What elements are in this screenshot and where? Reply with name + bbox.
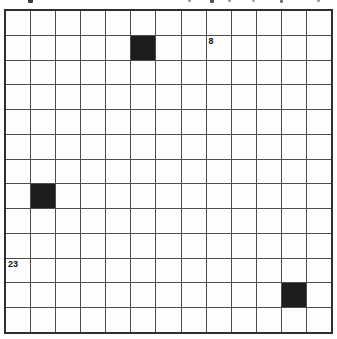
grid-cell[interactable] (307, 135, 331, 159)
grid-cell[interactable] (232, 110, 256, 134)
grid-cell[interactable] (307, 234, 331, 258)
grid-cell[interactable] (307, 11, 331, 35)
grid-cell[interactable] (307, 283, 331, 307)
grid-cell[interactable] (282, 11, 306, 35)
grid-cell[interactable] (31, 110, 55, 134)
grid-cell[interactable] (257, 259, 281, 283)
grid-cell[interactable] (6, 308, 30, 332)
grid-cell[interactable] (56, 110, 80, 134)
grid-cell[interactable] (106, 11, 130, 35)
grid-cell[interactable] (307, 85, 331, 109)
grid-cell[interactable] (156, 61, 180, 85)
grid-cell[interactable] (182, 110, 206, 134)
grid-cell[interactable] (106, 184, 130, 208)
grid-cell[interactable] (81, 61, 105, 85)
grid-cell[interactable] (182, 36, 206, 60)
grid-cell[interactable] (106, 308, 130, 332)
grid-cell[interactable] (182, 234, 206, 258)
grid-cell[interactable] (232, 160, 256, 184)
grid-cell[interactable] (56, 259, 80, 283)
grid-cell[interactable] (232, 135, 256, 159)
grid-cell[interactable] (81, 184, 105, 208)
grid-cell[interactable]: 8 (207, 36, 231, 60)
grid-cell[interactable] (282, 110, 306, 134)
grid-cell[interactable] (257, 209, 281, 233)
grid-cell[interactable] (106, 85, 130, 109)
grid-cell[interactable] (232, 85, 256, 109)
grid-cell[interactable] (232, 234, 256, 258)
grid-cell[interactable] (232, 259, 256, 283)
grid-cell[interactable] (207, 259, 231, 283)
grid-cell[interactable] (182, 184, 206, 208)
grid-cell[interactable] (307, 110, 331, 134)
grid-cell[interactable] (6, 135, 30, 159)
grid-cell[interactable] (282, 85, 306, 109)
grid-cell[interactable] (282, 160, 306, 184)
grid-cell[interactable] (207, 135, 231, 159)
grid-cell[interactable] (182, 11, 206, 35)
grid-cell[interactable] (131, 11, 155, 35)
grid-cell[interactable] (156, 36, 180, 60)
grid-cell[interactable] (207, 209, 231, 233)
grid-cell[interactable] (182, 259, 206, 283)
grid-cell[interactable] (207, 283, 231, 307)
grid-cell[interactable] (307, 160, 331, 184)
grid-cell[interactable] (56, 135, 80, 159)
grid-cell[interactable] (56, 308, 80, 332)
grid-cell[interactable] (6, 184, 30, 208)
grid-cell[interactable] (131, 184, 155, 208)
grid-cell[interactable] (106, 36, 130, 60)
grid-cell[interactable] (207, 308, 231, 332)
grid-cell[interactable] (131, 110, 155, 134)
grid-cell[interactable] (81, 36, 105, 60)
grid-cell[interactable] (207, 61, 231, 85)
grid-cell[interactable] (131, 61, 155, 85)
grid-cell[interactable] (31, 36, 55, 60)
grid-cell[interactable] (31, 61, 55, 85)
grid-cell[interactable] (56, 11, 80, 35)
grid-cell[interactable] (232, 184, 256, 208)
grid-cell[interactable] (81, 160, 105, 184)
grid-cell[interactable] (282, 209, 306, 233)
grid-cell[interactable] (81, 110, 105, 134)
grid-cell[interactable] (31, 283, 55, 307)
grid-cell[interactable] (257, 160, 281, 184)
grid-cell[interactable] (282, 234, 306, 258)
grid-cell[interactable] (106, 61, 130, 85)
grid-cell[interactable] (257, 184, 281, 208)
grid-cell[interactable] (307, 184, 331, 208)
grid-cell[interactable] (182, 135, 206, 159)
grid-cell[interactable] (257, 36, 281, 60)
grid-cell[interactable] (81, 85, 105, 109)
grid-cell[interactable] (56, 209, 80, 233)
grid-cell[interactable] (257, 61, 281, 85)
grid-cell[interactable] (81, 209, 105, 233)
grid-cell[interactable] (31, 11, 55, 35)
grid-cell[interactable] (207, 234, 231, 258)
grid-cell[interactable] (232, 61, 256, 85)
grid-cell[interactable] (182, 160, 206, 184)
grid-cell[interactable] (106, 209, 130, 233)
grid-cell[interactable] (31, 135, 55, 159)
grid-cell[interactable] (131, 308, 155, 332)
grid-cell[interactable] (207, 160, 231, 184)
grid-cell[interactable] (6, 85, 30, 109)
grid-cell[interactable] (31, 259, 55, 283)
grid-cell[interactable] (6, 160, 30, 184)
grid-cell[interactable] (307, 36, 331, 60)
grid-cell[interactable] (182, 61, 206, 85)
grid-cell[interactable] (156, 11, 180, 35)
grid-cell[interactable] (307, 259, 331, 283)
grid-cell[interactable] (131, 283, 155, 307)
grid-cell[interactable] (6, 283, 30, 307)
grid-cell[interactable] (156, 110, 180, 134)
grid-cell[interactable] (257, 135, 281, 159)
grid-cell[interactable] (6, 209, 30, 233)
grid-cell[interactable] (207, 85, 231, 109)
grid-cell[interactable] (282, 259, 306, 283)
grid-cell[interactable] (156, 184, 180, 208)
grid-cell[interactable] (257, 85, 281, 109)
grid-cell[interactable] (56, 61, 80, 85)
grid-cell[interactable] (282, 184, 306, 208)
grid-cell[interactable] (31, 234, 55, 258)
